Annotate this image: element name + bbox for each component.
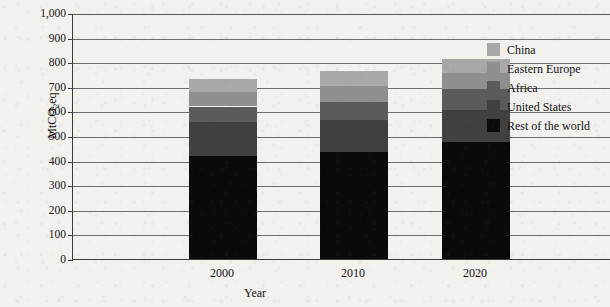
- bar-segment[interactable]: [442, 142, 510, 259]
- y-axis-tick-mark: [68, 112, 73, 113]
- y-axis-tick-label: 900: [49, 33, 66, 45]
- bar-stack-2000[interactable]: [189, 79, 257, 259]
- y-axis-tick-label: 1,000: [40, 8, 66, 20]
- legend-swatch-icon: [487, 100, 500, 113]
- legend-swatch-icon: [487, 62, 500, 75]
- x-axis-tick-labels: 200020102020: [72, 266, 438, 282]
- y-axis-tick-label: 300: [49, 180, 66, 192]
- legend-item[interactable]: Africa: [487, 78, 607, 97]
- bar-segment[interactable]: [189, 79, 257, 91]
- y-axis-tick-mark: [68, 211, 73, 212]
- y-axis-tick-mark: [68, 14, 73, 15]
- y-axis-tick-label: 100: [49, 230, 66, 242]
- bar-stack-2010[interactable]: [320, 71, 388, 259]
- y-axis-title-subscript: 2: [50, 104, 60, 108]
- x-axis-title: Year: [72, 286, 438, 301]
- chart-legend: ChinaEastern EuropeAfricaUnited StatesRe…: [487, 40, 607, 135]
- bar-segment[interactable]: [320, 120, 388, 151]
- y-axis-tick-mark: [68, 39, 73, 40]
- y-axis-tick-mark: [68, 63, 73, 64]
- legend-item[interactable]: China: [487, 40, 607, 59]
- x-axis-tick-label: 2010: [341, 266, 365, 281]
- y-axis-tick-mark: [68, 88, 73, 89]
- y-axis-tick-mark: [68, 137, 73, 138]
- y-axis-tick-mark: [68, 186, 73, 187]
- y-axis-title-pre: MtCO: [45, 108, 59, 139]
- legend-swatch-icon: [487, 119, 500, 132]
- bar-segment[interactable]: [320, 102, 388, 120]
- legend-label: Africa: [507, 82, 538, 94]
- legend-item[interactable]: Eastern Europe: [487, 59, 607, 78]
- gridline: [73, 14, 610, 15]
- legend-swatch-icon: [487, 43, 500, 56]
- y-axis-tick-mark: [68, 162, 73, 163]
- bar-segment[interactable]: [189, 122, 257, 155]
- legend-item[interactable]: Rest of the world: [487, 116, 607, 135]
- y-axis-title-post: eq: [45, 92, 59, 103]
- bar-segment[interactable]: [320, 71, 388, 86]
- x-axis-tick-label: 2000: [210, 266, 234, 281]
- bar-segment[interactable]: [189, 107, 257, 123]
- legend-label: Rest of the world: [507, 120, 590, 132]
- legend-label: United States: [507, 101, 571, 113]
- y-axis-title: MtCO2eq: [45, 56, 60, 176]
- bar-segment[interactable]: [320, 86, 388, 101]
- legend-swatch-icon: [487, 81, 500, 94]
- x-axis-tick-label: 2020: [463, 266, 487, 281]
- y-axis-tick-mark: [68, 235, 73, 236]
- y-axis-tick-label: 200: [49, 205, 66, 217]
- stacked-bar-chart: 01002003004005006007008009001,000 MtCO2e…: [0, 0, 610, 307]
- y-axis-tick-mark: [68, 260, 73, 261]
- bar-segment[interactable]: [189, 156, 257, 259]
- bar-segment[interactable]: [320, 152, 388, 260]
- bar-segment[interactable]: [189, 92, 257, 107]
- legend-label: Eastern Europe: [507, 63, 581, 75]
- legend-label: China: [507, 44, 536, 56]
- y-axis-tick-label: 0: [60, 254, 66, 266]
- legend-item[interactable]: United States: [487, 97, 607, 116]
